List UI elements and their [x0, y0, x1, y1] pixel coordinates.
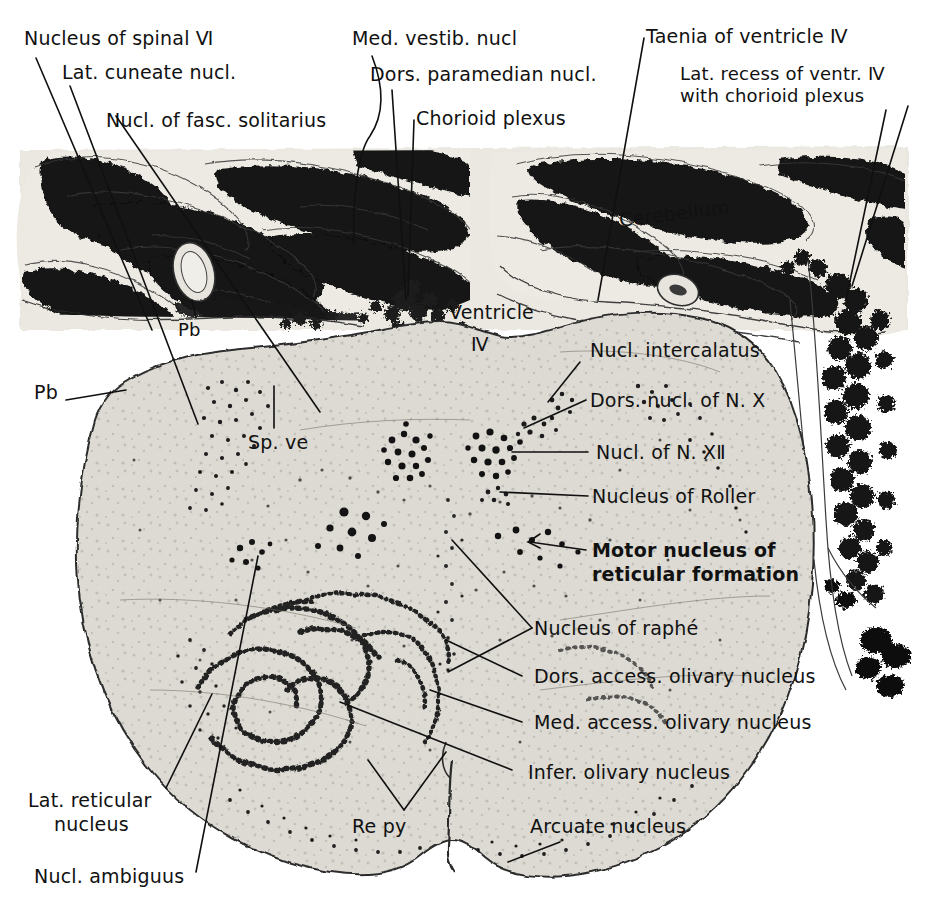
label-ventricle-word: Ventricle: [449, 302, 534, 323]
infer-olivary-suffix: nucleus: [655, 761, 730, 783]
label-nucleus-of-roller: Nucleus of Roller: [592, 486, 755, 507]
label-nucleus-of-spinal-v: Nucleus of spinal Ⅵ: [24, 28, 214, 49]
label-re-py: Re py: [352, 816, 406, 837]
label-ventricle-numeral: Ⅳ: [471, 334, 489, 355]
label-med-vestib-nucl: Med. vestib. nucl: [352, 28, 517, 49]
label-nucl-ambiguus: Nucl. ambiguus: [34, 866, 184, 887]
label-pb-inner: Pb: [178, 320, 201, 340]
label-taenia-of-ventricle-iv: Taenia of ventricle Ⅳ: [646, 26, 848, 47]
label-sp-ve: Sp. ve: [248, 432, 308, 453]
label-motor-nucleus-line2: reticular formation: [592, 564, 799, 585]
arcuate-prefix: Arcuate: [530, 815, 611, 837]
label-pb-outer: Pb: [34, 382, 58, 403]
label-nucl-intercalatus: Nucl. intercalatus: [590, 340, 760, 361]
infer-olivary-prefix: Infer. olivary: [528, 761, 655, 783]
label-chorioid-plexus: Chorioid plexus: [416, 108, 566, 129]
label-med-access-olivary-nucleus: Med. access. olivary nucleus: [534, 712, 812, 733]
label-nucleus-of-raphe: Nucleus of raphé: [534, 618, 698, 639]
label-lat-cuneate-nucl: Lat. cuneate nucl.: [62, 62, 236, 83]
anatomical-figure: Nucleus of spinal Ⅵ Lat. cuneate nucl. N…: [0, 0, 928, 914]
label-nucl-of-fasc-solitarius: Nucl. of fasc. solitarius: [106, 110, 326, 131]
label-lat-reticular-line2: nucleus: [54, 814, 129, 835]
label-motor-nucleus-line1: Motor nucleus of: [592, 540, 776, 561]
histology-plate: [0, 0, 928, 914]
label-dors-paramedian-nucl: Dors. paramedian nucl.: [370, 64, 597, 85]
label-lat-recess-line1: Lat. recess of ventr. Ⅳ: [680, 64, 885, 84]
label-dors-access-olivary-nucleus: Dors. access. olivary nucleus: [534, 666, 816, 687]
label-lat-recess-line2: with chorioid plexus: [680, 86, 864, 106]
label-lat-reticular-line1: Lat. reticular: [28, 790, 152, 811]
label-nucl-of-n-xii: Nucl. of N. ⅩⅡ: [596, 442, 726, 463]
label-arcuate-nucleus: Arcuate nucleus: [530, 816, 686, 837]
label-infer-olivary-nucleus: Infer. olivary nucleus: [528, 762, 730, 783]
arcuate-suffix: nucleus: [611, 815, 686, 837]
label-dors-nucl-of-n-x: Dors. nucl. of N. Ⅹ: [590, 390, 765, 411]
